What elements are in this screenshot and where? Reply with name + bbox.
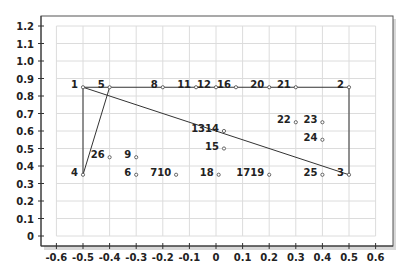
point-marker-icon bbox=[222, 129, 225, 132]
point-marker-icon bbox=[347, 173, 350, 176]
x-tick-label: 0.3 bbox=[287, 252, 305, 263]
x-tick-label: 0.5 bbox=[340, 252, 358, 263]
point-label: 16 bbox=[217, 79, 231, 90]
y-tick-label: 0 bbox=[27, 231, 34, 242]
scatter-chart: -0.6-0.5-0.4-0.3-0.2-0.100.10.20.30.40.5… bbox=[0, 0, 411, 272]
point-marker-icon bbox=[135, 173, 138, 176]
point-marker-icon bbox=[321, 121, 324, 124]
point-label: 23 bbox=[303, 114, 317, 125]
point-label: 15 bbox=[205, 141, 219, 152]
point-marker-icon bbox=[108, 86, 111, 89]
y-axis-ticks: 00.10.20.30.40.50.60.70.80.91.01.11.2 bbox=[16, 21, 44, 242]
y-tick-label: 0.9 bbox=[16, 74, 34, 85]
y-tick-label: 0.2 bbox=[16, 196, 34, 207]
point-marker-icon bbox=[108, 156, 111, 159]
point-marker-icon bbox=[81, 86, 84, 89]
point-label: 9 bbox=[124, 149, 131, 160]
x-tick-label: -0.3 bbox=[125, 252, 147, 263]
point-label: 1314 bbox=[191, 123, 219, 134]
y-tick-label: 0.5 bbox=[16, 144, 34, 155]
point-label: 20 bbox=[250, 79, 264, 90]
x-tick-label: 0.6 bbox=[367, 252, 385, 263]
point-marker-icon bbox=[161, 86, 164, 89]
point-marker-icon bbox=[268, 86, 271, 89]
point-label: 11 bbox=[177, 79, 191, 90]
x-tick-label: -0.1 bbox=[178, 252, 200, 263]
point-marker-icon bbox=[81, 173, 84, 176]
point-marker-icon bbox=[217, 173, 220, 176]
point-label: 12 bbox=[197, 79, 211, 90]
x-tick-label: -0.4 bbox=[99, 252, 121, 263]
y-tick-label: 0.3 bbox=[16, 179, 34, 190]
point-label: 6 bbox=[124, 167, 131, 178]
point-label: 5 bbox=[98, 79, 105, 90]
point-marker-icon bbox=[321, 138, 324, 141]
y-tick-label: 1.2 bbox=[16, 21, 34, 32]
point-label: 8 bbox=[151, 79, 158, 90]
y-tick-label: 0.1 bbox=[16, 214, 34, 225]
point-label: 21 bbox=[277, 79, 291, 90]
point-label: 25 bbox=[303, 167, 317, 178]
point-marker-icon bbox=[222, 147, 225, 150]
point-label: 1719 bbox=[236, 167, 264, 178]
point-label: 24 bbox=[303, 132, 317, 143]
y-tick-label: 0.4 bbox=[16, 161, 34, 172]
point-label: 4 bbox=[71, 167, 78, 178]
point-label: 22 bbox=[277, 114, 291, 125]
point-label: 26 bbox=[91, 149, 105, 160]
point-marker-icon bbox=[175, 173, 178, 176]
y-tick-label: 0.8 bbox=[16, 91, 34, 102]
y-tick-label: 0.6 bbox=[16, 126, 34, 137]
point-label: 1 bbox=[71, 79, 78, 90]
point-label: 710 bbox=[150, 167, 171, 178]
x-tick-label: 0 bbox=[213, 252, 220, 263]
y-tick-label: 1.0 bbox=[16, 56, 34, 67]
x-tick-label: -0.2 bbox=[152, 252, 174, 263]
point-label: 18 bbox=[200, 167, 214, 178]
x-tick-label: 0.1 bbox=[234, 252, 252, 263]
y-tick-label: 1.1 bbox=[16, 39, 34, 50]
point-label: 2 bbox=[337, 79, 344, 90]
point-marker-icon bbox=[294, 86, 297, 89]
point-marker-icon bbox=[234, 86, 237, 89]
x-tick-label: -0.5 bbox=[72, 252, 94, 263]
point-marker-icon bbox=[294, 121, 297, 124]
point-marker-icon bbox=[135, 156, 138, 159]
x-tick-label: 0.4 bbox=[314, 252, 332, 263]
y-tick-label: 0.7 bbox=[16, 109, 34, 120]
point-label: 3 bbox=[337, 167, 344, 178]
point-marker-icon bbox=[321, 173, 324, 176]
point-marker-icon bbox=[268, 173, 271, 176]
x-tick-label: 0.2 bbox=[260, 252, 278, 263]
point-marker-icon bbox=[347, 86, 350, 89]
x-tick-label: -0.6 bbox=[45, 252, 67, 263]
